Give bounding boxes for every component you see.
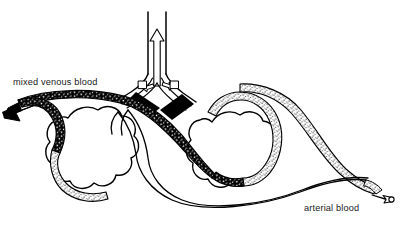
expired-air-arrow-icon	[150, 29, 164, 86]
label-arterial-blood: arterial blood	[304, 203, 359, 213]
alveoli-capillary-diagram	[0, 0, 401, 228]
label-mixed-venous-blood: mixed venous blood	[13, 77, 97, 87]
arterial-outflow-arrow-icon	[372, 195, 394, 203]
